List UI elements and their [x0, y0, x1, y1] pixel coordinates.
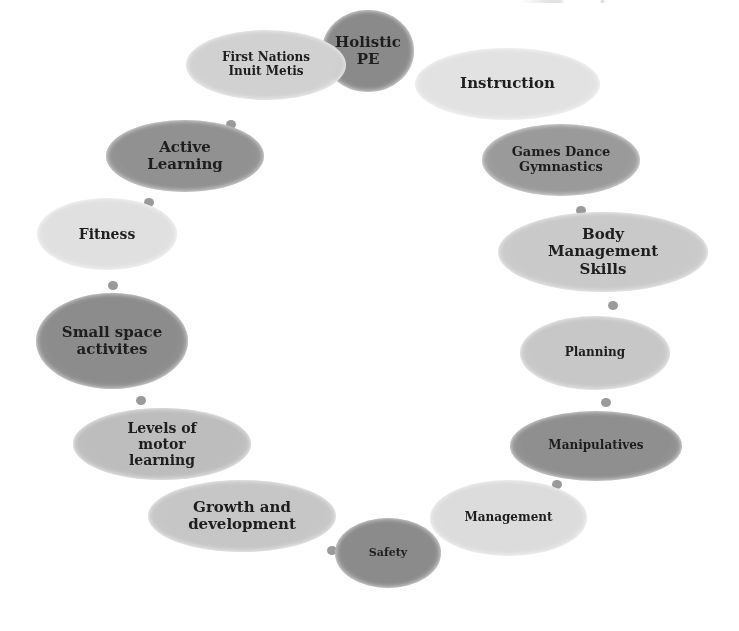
node-label: ActiveLearning	[147, 139, 223, 174]
node-planning: Planning	[520, 316, 670, 390]
node-label: Levels ofmotorlearning	[127, 420, 196, 468]
node-label-line: Active	[147, 139, 223, 156]
node-label-line: Safety	[369, 547, 407, 560]
node-manipulatives: Manipulatives	[510, 411, 682, 481]
node-label: Planning	[565, 346, 625, 360]
node-label-line: activites	[62, 341, 162, 358]
node-label-line: development	[188, 516, 296, 533]
node-label-line: Levels of	[127, 420, 196, 436]
node-label: Safety	[369, 547, 407, 560]
node-label-line: Management	[548, 243, 658, 260]
node-first-nations-inuit-metis: First NationsInuit Metis	[186, 30, 346, 100]
cropped-text-fragment	[520, 0, 620, 3]
node-label-line: Small space	[62, 324, 162, 341]
connector-dot	[108, 281, 118, 290]
node-body-management-skills: BodyManagementSkills	[498, 212, 708, 292]
node-label: Fitness	[79, 226, 136, 242]
node-label-line: Management	[464, 511, 552, 525]
node-label: BodyManagementSkills	[548, 226, 658, 278]
node-label-line: Games Dance	[512, 145, 611, 160]
node-label: Growth anddevelopment	[188, 499, 296, 534]
node-label: Small spaceactivites	[62, 324, 162, 359]
connector-dot	[601, 398, 611, 407]
node-label: First NationsInuit Metis	[222, 51, 310, 79]
connector-dot	[136, 396, 146, 405]
node-fitness: Fitness	[37, 198, 177, 270]
node-label: Manipulatives	[548, 439, 643, 453]
node-management: Management	[430, 480, 587, 556]
cycle-diagram: HolisticPEInstructionGames DanceGymnasti…	[0, 0, 739, 631]
node-label-line: Inuit Metis	[222, 65, 310, 79]
node-safety: Safety	[335, 518, 441, 588]
node-label-line: Learning	[147, 156, 223, 173]
node-games-dance-gymnastics: Games DanceGymnastics	[482, 124, 640, 196]
node-label: Games DanceGymnastics	[512, 145, 611, 175]
node-instruction: Instruction	[415, 48, 600, 120]
node-label: Instruction	[460, 75, 555, 92]
node-label-line: Skills	[548, 261, 658, 278]
node-growth-and-development: Growth anddevelopment	[148, 480, 336, 552]
node-active-learning: ActiveLearning	[106, 120, 264, 192]
node-label-line: First Nations	[222, 51, 310, 65]
connector-dot	[608, 301, 618, 310]
node-label-line: motor	[127, 436, 196, 452]
node-label-line: learning	[127, 452, 196, 468]
node-small-space-activites: Small spaceactivites	[36, 293, 188, 389]
node-levels-of-motor-learning: Levels ofmotorlearning	[73, 408, 251, 480]
node-label-line: Fitness	[79, 226, 136, 242]
node-label-line: Manipulatives	[548, 439, 643, 453]
node-label-line: Gymnastics	[512, 160, 611, 175]
node-label-line: Planning	[565, 346, 625, 360]
node-label: Management	[464, 511, 552, 525]
node-label-line: Holistic	[335, 34, 401, 51]
node-label-line: Body	[548, 226, 658, 243]
node-label-line: Growth and	[188, 499, 296, 516]
node-label-line: Instruction	[460, 75, 555, 92]
